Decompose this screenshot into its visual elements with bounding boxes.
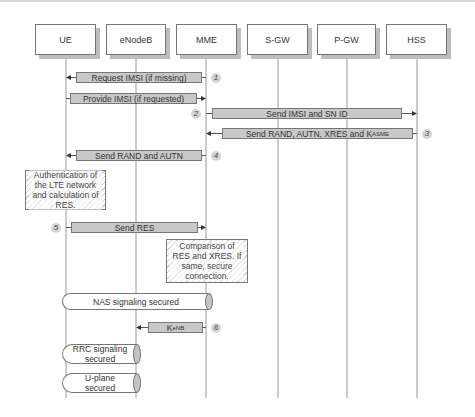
channel-label: U-plane secured xyxy=(63,373,137,393)
message-bar: Send RAND, AUTN, XRES and KASME xyxy=(222,128,413,139)
message-bar: KeNB xyxy=(148,322,203,333)
arrowhead-icon xyxy=(412,111,417,116)
note-text: Authentication of the LTE network and ca… xyxy=(29,170,102,210)
message-label-subscript: ASME xyxy=(372,131,389,137)
entity-label: MME xyxy=(196,35,217,45)
entity-hss: HSS xyxy=(386,24,447,55)
process-note: Authentication of the LTE network and ca… xyxy=(25,170,106,210)
entity-mme: MME xyxy=(176,24,237,55)
message-bar: Send IMSI and SN ID xyxy=(212,108,402,119)
step-number-badge: 2 xyxy=(191,109,201,119)
secured-channel-cylinder: RRC signaling secured xyxy=(62,344,137,364)
message-bar: Send RAND and AUTN xyxy=(76,150,202,161)
step-number-badge: 6 xyxy=(211,323,221,333)
entity-label: UE xyxy=(59,35,72,45)
message-label: Send IMSI and SN ID xyxy=(266,109,347,119)
arrowhead-icon xyxy=(201,225,206,230)
entity-label: P-GW xyxy=(334,35,359,45)
note-text: Comparison of RES and XRES. If same, sec… xyxy=(170,241,244,281)
message-label: Send RAND, AUTN, XRES and K xyxy=(246,129,372,139)
message-label: Send RES xyxy=(115,223,155,233)
step-number-badge: 4 xyxy=(211,151,221,161)
entity-enodeb: eNodeB xyxy=(106,24,166,55)
channel-label: NAS signaling secured xyxy=(87,297,185,307)
entity-label: eNodeB xyxy=(120,35,153,45)
step-number-badge: 1 xyxy=(211,73,221,83)
entity-pgw: P-GW xyxy=(317,24,376,55)
arrowhead-icon xyxy=(206,131,211,136)
secured-channel-cylinder: U-plane secured xyxy=(62,373,137,393)
arrowhead-icon xyxy=(66,75,71,80)
step-number-badge: 3 xyxy=(422,129,432,139)
entity-label: HSS xyxy=(407,35,426,45)
entity-label: S-GW xyxy=(265,35,290,45)
message-label: Provide IMSI (if requested) xyxy=(83,94,184,104)
arrowhead-icon xyxy=(66,153,71,158)
entity-ue: UE xyxy=(35,24,96,55)
cylinder-end-cap-icon xyxy=(133,344,141,364)
cylinder-end-cap-icon xyxy=(133,373,141,393)
message-label-subscript: eNB xyxy=(173,325,185,331)
arrowhead-icon xyxy=(201,96,206,101)
process-note: Comparison of RES and XRES. If same, sec… xyxy=(166,239,248,283)
cylinder-end-cap-icon xyxy=(205,293,213,310)
message-bar: Send RES xyxy=(71,222,198,233)
message-bar: Request IMSI (if missing) xyxy=(76,72,202,83)
step-number-badge: 5 xyxy=(51,223,61,233)
channel-label: RRC signaling secured xyxy=(63,344,137,364)
secured-channel-cylinder: NAS signaling secured xyxy=(62,293,209,310)
entity-sgw: S-GW xyxy=(247,24,308,55)
arrowhead-icon xyxy=(136,325,141,330)
message-label: Send RAND and AUTN xyxy=(95,151,183,161)
message-label: Request IMSI (if missing) xyxy=(92,73,187,83)
message-bar: Provide IMSI (if requested) xyxy=(70,93,197,104)
